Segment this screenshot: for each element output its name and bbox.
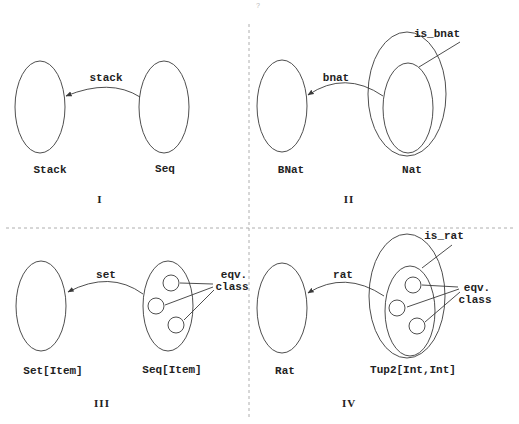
equivalence-class-circle — [389, 300, 405, 316]
callout-line — [422, 245, 452, 268]
diagram-canvas: StackSeqstackIBNatNatis_bnatbnatIISet[It… — [0, 0, 519, 424]
set-ellipse-rat — [257, 263, 307, 353]
equivalence-class-circle — [409, 318, 425, 334]
callout-label: is_rat — [424, 230, 464, 242]
equivalence-class-circle — [163, 275, 179, 291]
callout-label: class — [215, 281, 248, 293]
set-ellipse-bnat — [257, 60, 307, 152]
set-label: Seq — [155, 163, 175, 175]
panel-numeral: II — [344, 193, 355, 205]
mapping-label: rat — [333, 269, 353, 281]
equivalence-class-circle — [168, 317, 184, 333]
set-ellipse-seq — [139, 61, 189, 153]
panel-iii: Set[Item]Seq[Item]eqv.classsetIII — [16, 261, 249, 409]
subset-ellipse-is-rat — [385, 266, 435, 356]
callout-label: eqv. — [464, 282, 490, 294]
callout-label: eqv. — [221, 269, 247, 281]
mapping-arrow — [308, 282, 384, 296]
mapping-label: set — [96, 269, 116, 281]
panel-numeral: III — [94, 397, 110, 409]
callout-line — [184, 290, 214, 320]
callout-line — [180, 283, 213, 284]
equivalence-class-circle — [148, 298, 164, 314]
set-ellipse-set-item — [16, 261, 66, 351]
set-label: Set[Item] — [23, 365, 82, 377]
panel-iv: RatTup2[Int,Int]is_rateqv.classratIV — [257, 230, 492, 409]
set-label: Stack — [33, 164, 66, 176]
callout-label: class — [458, 294, 491, 306]
mapping-arrow — [66, 87, 140, 97]
callout-line — [165, 287, 213, 305]
mapping-arrow — [68, 281, 143, 294]
equivalence-class-circle — [405, 277, 421, 293]
page-mark: ? — [256, 2, 260, 10]
set-label: Rat — [275, 365, 295, 377]
set-label: Tup2[Int,Int] — [370, 364, 456, 376]
panel-ii: BNatNatis_bnatbnatII — [257, 28, 460, 205]
callout-line — [419, 42, 460, 67]
panel-i: StackSeqstackI — [15, 61, 189, 205]
callout-line — [422, 285, 458, 287]
set-label: Nat — [402, 164, 422, 176]
panel-numeral: I — [97, 193, 102, 205]
set-ellipse-stack — [15, 61, 65, 153]
set-label: Seq[Item] — [142, 364, 201, 376]
mapping-arrow — [308, 83, 383, 96]
set-label: BNat — [278, 164, 304, 176]
subset-ellipse-is-bnat — [383, 63, 433, 153]
mapping-label: stack — [89, 72, 122, 84]
mapping-label: bnat — [323, 72, 349, 84]
set-ellipse-seq-item — [143, 261, 193, 351]
callout-label: is_bnat — [414, 28, 460, 40]
panel-numeral: IV — [342, 397, 356, 409]
